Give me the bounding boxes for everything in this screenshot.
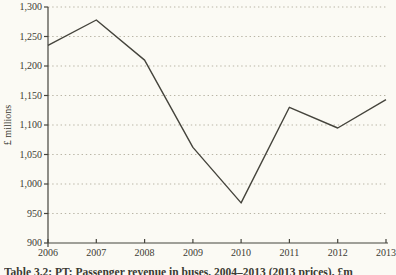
y-tick-label: 1,300 — [20, 1, 43, 12]
y-tick-label: 1,100 — [20, 119, 43, 130]
x-tick-label: 2008 — [135, 247, 155, 258]
scanned-chart-page: 9009501,0001,0501,1001,1501,2001,2501,30… — [0, 0, 396, 275]
y-axis-ticks: 9009501,0001,0501,1001,1501,2001,2501,30… — [20, 1, 49, 248]
caption-text: Table 3.2: PT: Passenger revenue in buse… — [4, 265, 396, 275]
x-axis-ticks: 20062007200820092010201120122013 — [38, 239, 396, 258]
x-tick-label: 2009 — [183, 247, 203, 258]
gridlines — [48, 7, 388, 214]
series-line-passenger-revenue — [48, 20, 386, 203]
y-tick-label: 1,150 — [20, 90, 43, 101]
chart-canvas: 9009501,0001,0501,1001,1501,2001,2501,30… — [0, 0, 396, 263]
y-tick-label: 950 — [27, 208, 42, 219]
x-tick-label: 2010 — [231, 247, 251, 258]
line-chart: 9009501,0001,0501,1001,1501,2001,2501,30… — [0, 0, 396, 263]
x-tick-label: 2012 — [328, 247, 348, 258]
x-tick-label: 2007 — [86, 247, 106, 258]
x-tick-label: 2013 — [376, 247, 396, 258]
y-tick-label: 1,200 — [20, 60, 43, 71]
y-axis-title: £ millions — [2, 105, 13, 145]
x-tick-label: 2011 — [280, 247, 300, 258]
y-tick-label: 1,050 — [20, 149, 43, 160]
caption: Table 3.2: PT: Passenger revenue in buse… — [4, 265, 396, 275]
y-tick-label: 1,000 — [20, 178, 43, 189]
y-tick-label: 1,250 — [20, 31, 43, 42]
x-tick-label: 2006 — [38, 247, 58, 258]
